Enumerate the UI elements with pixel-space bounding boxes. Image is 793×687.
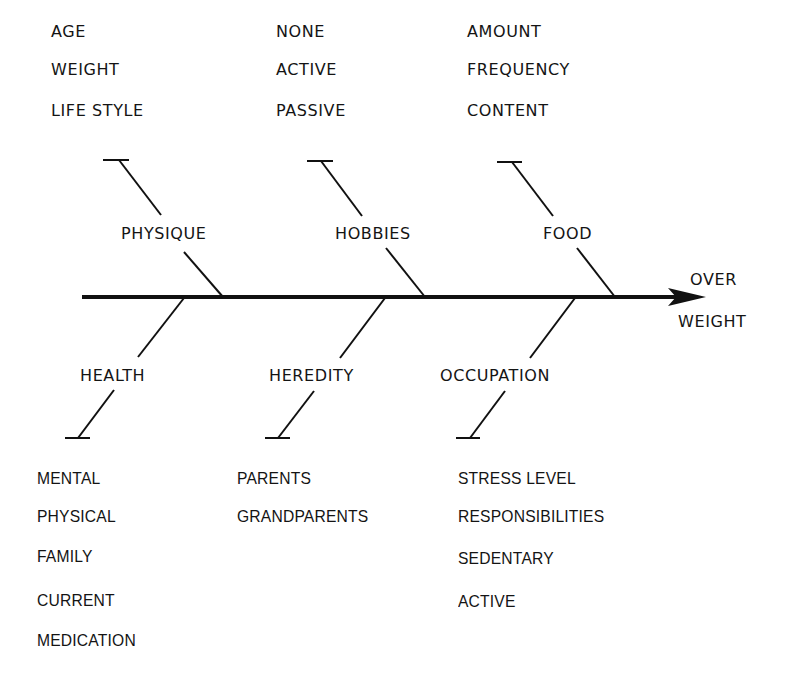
factor-food-3: CONTENT xyxy=(467,103,549,119)
factor-hobbies-2: ACTIVE xyxy=(276,62,337,78)
factor-food-2: FREQUENCY xyxy=(467,62,570,78)
factor-occupation-3: SEDENTARY xyxy=(458,550,554,567)
cause-label-hobbies: HOBBIES xyxy=(335,226,411,242)
factor-heredity-2: GRANDPARENTS xyxy=(237,508,368,525)
factor-occupation-2: RESPONSIBILITIES xyxy=(458,508,604,525)
effect-label-line2: WEIGHT xyxy=(678,314,746,330)
factor-occupation-4: ACTIVE xyxy=(458,593,516,610)
factor-heredity-1: PARENTS xyxy=(237,470,311,487)
fishbone-diagram: AGE WEIGHT LIFE STYLE NONE ACTIVE PASSIV… xyxy=(0,0,793,687)
cause-label-health: HEALTH xyxy=(80,368,145,384)
factor-health-4: CURRENT xyxy=(37,592,115,609)
factor-physique-3: LIFE STYLE xyxy=(51,103,144,119)
effect-label-line1: OVER xyxy=(690,272,737,288)
cause-label-occupation: OCCUPATION xyxy=(440,368,550,384)
factor-occupation-1: STRESS LEVEL xyxy=(458,470,576,487)
factor-hobbies-1: NONE xyxy=(276,24,325,40)
factor-hobbies-3: PASSIVE xyxy=(276,103,346,119)
factor-health-2: PHYSICAL xyxy=(37,508,116,525)
factor-physique-2: WEIGHT xyxy=(51,62,119,78)
cause-label-heredity: HEREDITY xyxy=(269,368,354,384)
cause-label-physique: PHYSIQUE xyxy=(121,226,207,242)
cause-label-food: FOOD xyxy=(543,226,592,242)
factor-physique-1: AGE xyxy=(51,24,86,40)
factor-health-5: MEDICATION xyxy=(37,632,136,649)
factor-health-1: MENTAL xyxy=(37,470,100,487)
factor-food-1: AMOUNT xyxy=(467,24,541,40)
factor-health-3: FAMILY xyxy=(37,548,93,565)
